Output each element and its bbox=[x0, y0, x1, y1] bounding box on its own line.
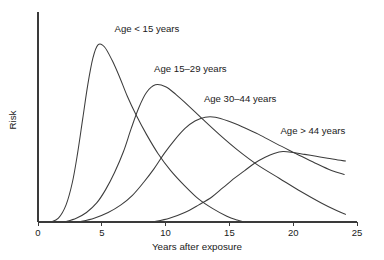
x-tick-label-10: 10 bbox=[160, 227, 171, 238]
x-tick-label-20: 20 bbox=[288, 227, 299, 238]
y-axis-title: Risk bbox=[7, 110, 18, 129]
x-axis-ticks bbox=[38, 222, 357, 226]
curve-series-3 bbox=[153, 151, 346, 222]
series-annotations-group: Age < 15 yearsAge 15–29 yearsAge 30–44 y… bbox=[115, 23, 346, 137]
x-tick-label-0: 0 bbox=[35, 227, 40, 238]
x-axis-title: Years after exposure bbox=[152, 241, 243, 252]
x-tick-label-5: 5 bbox=[99, 227, 104, 238]
x-tick-label-25: 25 bbox=[352, 227, 363, 238]
series-label-3: Age > 44 years bbox=[280, 125, 345, 136]
axes-group bbox=[38, 12, 357, 222]
series-label-0: Age < 15 years bbox=[115, 23, 180, 34]
risk-vs-years-chart: 0510152025 Age < 15 yearsAge 15–29 years… bbox=[0, 0, 384, 260]
series-label-1: Age 15–29 years bbox=[154, 63, 227, 74]
x-tick-label-15: 15 bbox=[224, 227, 235, 238]
chart-canvas: 0510152025 Age < 15 yearsAge 15–29 years… bbox=[0, 0, 384, 260]
series-label-2: Age 30–44 years bbox=[204, 93, 277, 104]
x-axis-tick-labels: 0510152025 bbox=[35, 227, 362, 238]
